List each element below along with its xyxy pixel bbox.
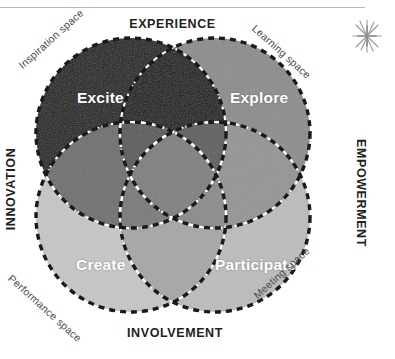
axis-label-innovation: INNOVATION: [4, 148, 18, 231]
venn-label-explore: Explore: [230, 89, 288, 107]
asterisk-star-icon: [350, 18, 384, 54]
venn-label-create: Create: [76, 256, 125, 274]
venn-label-excite: Excite: [77, 89, 124, 107]
diagram-canvas: Excite Explore Create Participate EXPERI…: [0, 0, 395, 359]
axis-label-involvement: INVOLVEMENT: [0, 326, 350, 340]
top-rule-divider: [0, 7, 365, 8]
axis-label-empowerment: EMPOWERMENT: [354, 139, 368, 247]
